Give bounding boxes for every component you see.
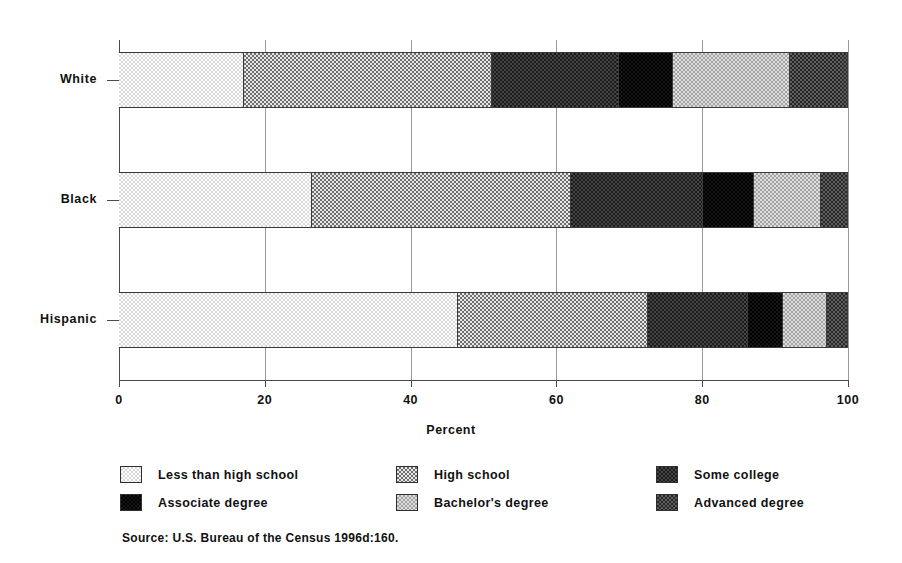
x-axis-tick (702, 380, 703, 387)
x-axis-label-0: 0 (115, 393, 122, 407)
bar-segment (119, 52, 244, 108)
bar-segment (790, 52, 848, 108)
bar-segment (703, 172, 754, 228)
legend-item[interactable]: Associate degree (120, 494, 268, 511)
bar-segment (783, 292, 827, 348)
bar-segment (827, 292, 848, 348)
bar-row (119, 172, 848, 228)
legend-label: Less than high school (158, 468, 298, 482)
x-axis-title: Percent (0, 423, 902, 437)
x-axis-tick (265, 380, 266, 387)
bar-segment (119, 292, 458, 348)
x-axis-label-60: 60 (549, 393, 564, 407)
legend-item[interactable]: Advanced degree (656, 494, 804, 511)
legend-label: High school (434, 468, 510, 482)
legend-swatch-icon (120, 494, 142, 511)
legend-swatch-icon (656, 494, 678, 511)
x-axis-label-80: 80 (695, 393, 710, 407)
bar-segment (492, 52, 620, 108)
bar-segment (648, 292, 748, 348)
bar-segment (754, 172, 821, 228)
x-axis-tick (411, 380, 412, 387)
legend-label: Advanced degree (694, 496, 804, 510)
bar-segment (119, 172, 312, 228)
y-axis-tick (107, 200, 119, 201)
bar-segment (748, 292, 783, 348)
chart-figure: WhiteBlackHispanic 020406080100 Percent … (0, 0, 902, 563)
legend-item[interactable]: Bachelor's degree (396, 494, 549, 511)
bar-row (119, 52, 848, 108)
x-axis-label-40: 40 (403, 393, 418, 407)
x-axis-label-100: 100 (837, 393, 859, 407)
bar-segment (821, 172, 848, 228)
x-axis-line (119, 380, 849, 381)
x-axis-tick (848, 380, 849, 387)
legend-label: Bachelor's degree (434, 496, 549, 510)
x-axis-tick (119, 380, 120, 387)
legend-swatch-icon (396, 494, 418, 511)
legend-swatch-icon (396, 466, 418, 483)
x-axis-label-20: 20 (257, 393, 272, 407)
source-note: Source: U.S. Bureau of the Census 1996d:… (122, 531, 399, 545)
bar-segment (312, 172, 571, 228)
legend-item[interactable]: High school (396, 466, 510, 483)
y-axis-label-black: Black (0, 192, 97, 206)
y-axis-tick (107, 320, 119, 321)
y-axis-tick (107, 80, 119, 81)
bar-row (119, 292, 848, 348)
legend-item[interactable]: Less than high school (120, 466, 298, 483)
bar-segment (673, 52, 790, 108)
bar-segment (571, 172, 703, 228)
legend-label: Some college (694, 468, 779, 482)
legend-item[interactable]: Some college (656, 466, 779, 483)
x-axis-tick (556, 380, 557, 387)
bar-segment (619, 52, 673, 108)
y-axis-label-white: White (0, 72, 97, 86)
y-axis-label-hispanic: Hispanic (0, 312, 97, 326)
bar-segment (244, 52, 492, 108)
legend-swatch-icon (120, 466, 142, 483)
bar-segment (458, 292, 648, 348)
gridline-100 (848, 40, 849, 381)
legend-swatch-icon (656, 466, 678, 483)
legend-label: Associate degree (158, 496, 268, 510)
